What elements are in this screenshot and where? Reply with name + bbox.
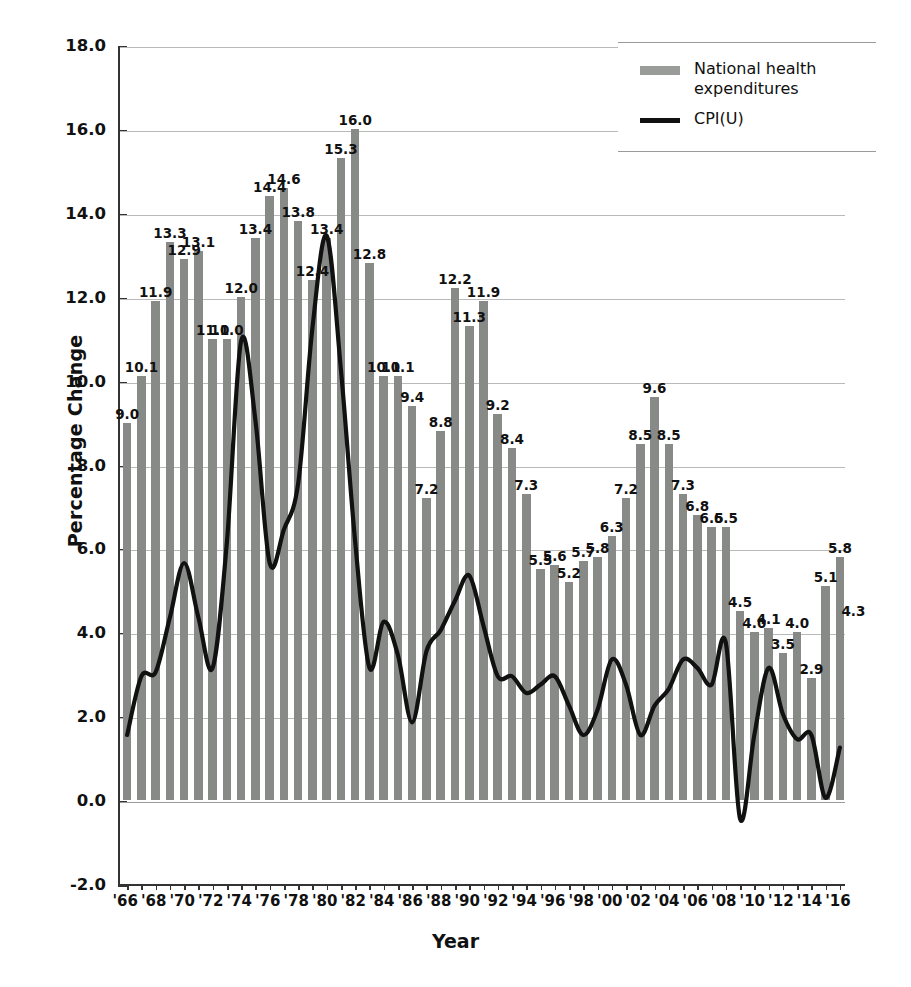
y-tick-label: 14.0 [14, 204, 106, 223]
bar-value-label-1979: 12.4 [290, 263, 334, 279]
y-tick-label: 2.0 [14, 707, 106, 726]
bar-value-label-1973: 11.0 [205, 322, 249, 338]
y-tick-label: -2.0 [14, 875, 106, 894]
legend-label-cpi: CPI(U) [694, 109, 744, 129]
bar-value-label-2008: 6.5 [704, 510, 748, 526]
bar-value-label-2013: 4.0 [775, 615, 819, 631]
y-tick-label: 10.0 [14, 372, 106, 391]
bar-value-label-1967: 10.1 [119, 359, 163, 375]
bar-value-label-1994: 7.3 [504, 477, 548, 493]
legend-label-nhe: National healthexpenditures [694, 59, 816, 99]
bar-value-label-1986: 9.4 [390, 389, 434, 405]
bar-value-label-2003: 9.6 [633, 380, 677, 396]
health-expenditures-cpi-chart: Percentage Change Year 18.016.014.012.01… [0, 0, 911, 987]
legend-item-national-health-expenditures: National healthexpenditures [640, 59, 816, 99]
bar-value-label-2000: 6.3 [590, 519, 634, 535]
bar-swatch-icon [640, 66, 680, 75]
bar-value-label-2012: 3.5 [761, 636, 805, 652]
bar-value-label-1985: 10.1 [376, 359, 420, 375]
bar-value-label-extra: 4.3 [831, 603, 875, 619]
bar-value-label-1992: 9.2 [476, 397, 520, 413]
x-tick-label: '16 [821, 892, 855, 910]
y-tick-label: 12.0 [14, 288, 106, 307]
bar-value-label-2009: 4.5 [718, 594, 762, 610]
bar-value-label-2005: 7.3 [661, 477, 705, 493]
bar-value-label-2016: 5.8 [818, 540, 862, 556]
y-tick-label: 0.0 [14, 791, 106, 810]
line-swatch-icon [640, 118, 680, 123]
bar-value-label-1990: 11.3 [447, 309, 491, 325]
legend-item-cpi-u: CPI(U) [640, 109, 744, 129]
y-tick-label: 6.0 [14, 539, 106, 558]
x-axis-title: Year [0, 930, 911, 952]
bar-value-label-1971: 13.1 [176, 234, 220, 250]
bar-value-label-1993: 8.4 [490, 431, 534, 447]
bar-value-label-1988: 8.8 [419, 414, 463, 430]
bar-value-label-1978: 13.8 [276, 204, 320, 220]
chart-legend: National healthexpenditures CPI(U) [618, 42, 876, 152]
bar-value-label-1975: 13.4 [233, 221, 277, 237]
bar-value-label-1968: 11.9 [134, 284, 178, 300]
bar-value-label-1983: 12.8 [347, 246, 391, 262]
bar-value-label-1977: 14.6 [262, 171, 306, 187]
cpi-line-series [120, 47, 847, 886]
bar-value-label-1981: 15.3 [319, 141, 363, 157]
bar-value-label-2015: 5.1 [804, 569, 848, 585]
bar-value-label-1974: 12.0 [219, 280, 263, 296]
y-tick-label: 18.0 [14, 36, 106, 55]
bar-value-label-2014: 2.9 [789, 661, 833, 677]
plot-area: 9.010.111.913.312.913.111.011.012.013.41… [118, 47, 845, 886]
bar-value-label-1966: 9.0 [105, 406, 149, 422]
bar-value-label-1982: 16.0 [333, 112, 377, 128]
y-tick-label: 4.0 [14, 623, 106, 642]
y-tick-label: 8.0 [14, 456, 106, 475]
bar-value-label-1997: 5.2 [547, 565, 591, 581]
y-axis-title: Percentage Change [64, 311, 86, 571]
y-tick-label: 16.0 [14, 120, 106, 139]
bar-value-label-1999: 5.8 [576, 540, 620, 556]
bar-value-label-2004: 8.5 [647, 427, 691, 443]
bar-value-label-2001: 7.2 [604, 481, 648, 497]
bar-value-label-1987: 7.2 [404, 481, 448, 497]
bar-value-label-1980: 13.4 [305, 221, 349, 237]
bar-value-label-1991: 11.9 [462, 284, 506, 300]
